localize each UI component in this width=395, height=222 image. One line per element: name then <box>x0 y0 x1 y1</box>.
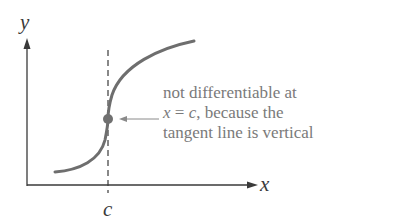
point-at-c <box>103 114 113 124</box>
x-axis-label: x <box>260 172 269 197</box>
annotation-line-1: not differentiable at <box>163 83 314 103</box>
diagram-canvas: y x c not differentiable at x = c, becau… <box>0 0 395 222</box>
y-axis-arrow-icon <box>24 38 31 49</box>
annotation-x-var: x <box>163 103 171 122</box>
c-tick-label: c <box>103 197 112 222</box>
annotation-equals: = <box>171 103 189 122</box>
annotation-line-2-rest: , because the <box>196 103 283 122</box>
annotation-arrow-icon <box>119 116 127 122</box>
annotation-line-3: tangent line is vertical <box>163 123 314 143</box>
annotation-line-2: x = c, because the <box>163 103 314 123</box>
annotation-text: not differentiable at x = c, because the… <box>163 83 314 143</box>
x-axis-arrow-icon <box>247 182 258 189</box>
y-axis-label: y <box>20 10 29 35</box>
